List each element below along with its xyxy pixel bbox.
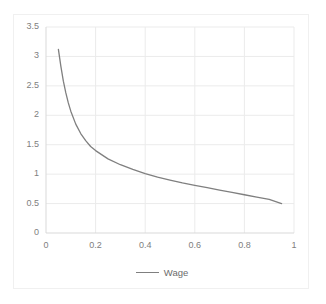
x-axis-tick-label: 0.2 <box>76 241 116 250</box>
chart-legend: Wage <box>14 268 310 278</box>
x-axis-tick-label: 1 <box>274 241 314 250</box>
y-axis-tick-label: 2.5 <box>14 81 39 90</box>
y-axis-tick-label: 3.5 <box>14 22 39 31</box>
chart-container: 00.511.522.533.500.20.40.60.81 Wage <box>13 14 309 289</box>
y-axis-tick-label: 0.5 <box>14 199 39 208</box>
x-axis-tick-label: 0.8 <box>224 241 264 250</box>
x-axis-tick-label: 0 <box>26 241 66 250</box>
x-axis-tick-label: 0.6 <box>175 241 215 250</box>
legend-label-wage: Wage <box>164 268 188 278</box>
y-axis-tick-label: 1 <box>14 169 39 178</box>
y-axis-tick-label: 1.5 <box>14 140 39 149</box>
legend-line-swatch <box>136 272 159 273</box>
y-axis-tick-label: 0 <box>14 228 39 237</box>
y-axis-tick-label: 3 <box>14 51 39 60</box>
x-axis-tick-label: 0.4 <box>125 241 165 250</box>
series-line-wage <box>58 49 281 203</box>
y-axis-tick-label: 2 <box>14 110 39 119</box>
